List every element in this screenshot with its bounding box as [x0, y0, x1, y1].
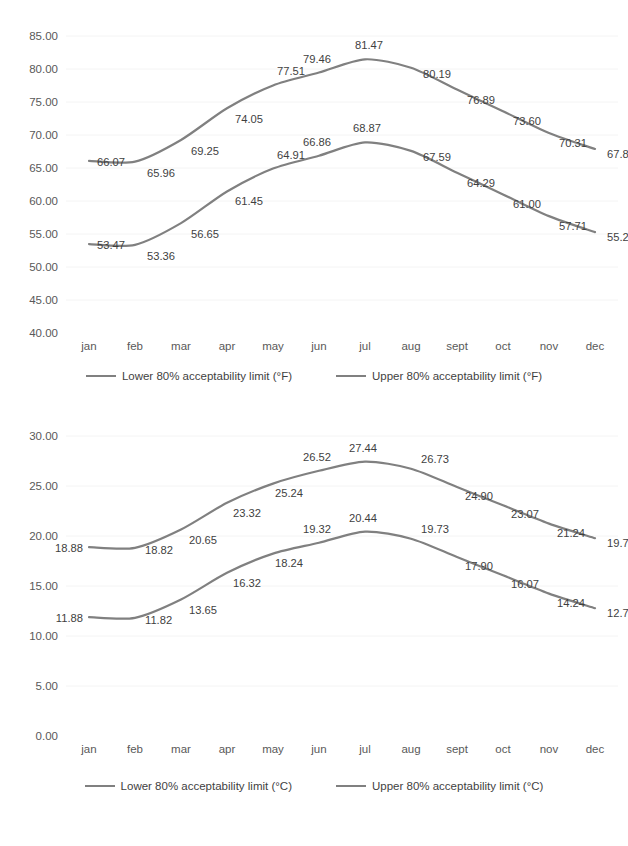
legend-label: Lower 80% acceptability limit (°C) [121, 780, 292, 792]
y-axis-tick-label: 75.00 [29, 96, 58, 108]
y-axis-tick-label: 45.00 [29, 294, 58, 306]
fahrenheit-chart-block: 85.0080.0075.0070.0065.0060.0055.0050.00… [0, 18, 628, 400]
data-point-label: 18.24 [275, 557, 303, 569]
data-point-label: 13.65 [189, 604, 217, 616]
x-axis-category-label: sept [446, 743, 469, 755]
data-point-label: 19.73 [421, 523, 449, 535]
data-point-label: 76.89 [467, 94, 495, 106]
data-point-label: 23.07 [511, 508, 539, 520]
data-point-label: 26.52 [303, 451, 331, 463]
legend-item-upper[interactable]: Upper 80% acceptability limit (°C) [336, 780, 543, 792]
celsius-chart-svg: 30.0025.0020.0015.0010.005.000.00janfebm… [0, 418, 628, 773]
data-point-label: 53.36 [147, 250, 175, 262]
x-axis-category-label: sept [446, 340, 469, 352]
fahrenheit-chart-legend: Lower 80% acceptability limit (°F)Upper … [0, 370, 628, 382]
celsius-chart-legend: Lower 80% acceptability limit (°C)Upper … [0, 780, 628, 792]
data-point-label: 66.86 [303, 136, 331, 148]
x-axis-category-label: dec [586, 743, 605, 755]
data-point-label: 14.24 [557, 597, 585, 609]
data-point-label: 69.25 [191, 145, 219, 157]
data-point-label: 80.19 [423, 68, 451, 80]
data-point-label: 25.24 [275, 487, 303, 499]
y-axis-tick-label: 60.00 [29, 195, 58, 207]
x-axis-category-label: mar [171, 340, 191, 352]
x-axis-category-label: jul [358, 340, 371, 352]
legend-item-lower[interactable]: Lower 80% acceptability limit (°F) [86, 370, 292, 382]
x-axis-category-label: jun [310, 340, 326, 352]
legend-line-swatch [336, 785, 366, 787]
data-point-label: 74.05 [235, 113, 263, 125]
y-axis-tick-label: 70.00 [29, 129, 58, 141]
x-axis-category-label: aug [401, 743, 420, 755]
data-point-label: 18.88 [55, 542, 83, 554]
data-point-label: 55.28 [607, 231, 628, 243]
data-point-label: 81.47 [355, 39, 383, 51]
x-axis-category-label: oct [495, 340, 511, 352]
chart-page: 85.0080.0075.0070.0065.0060.0055.0050.00… [0, 0, 628, 846]
legend-label: Upper 80% acceptability limit (°F) [372, 370, 542, 382]
legend-label: Lower 80% acceptability limit (°F) [122, 370, 292, 382]
data-point-label: 23.32 [233, 507, 261, 519]
x-axis-category-label: jan [80, 340, 96, 352]
celsius-chart-block: 30.0025.0020.0015.0010.005.000.00janfebm… [0, 418, 628, 818]
y-axis-tick-label: 85.00 [29, 30, 58, 42]
x-axis-category-label: jan [80, 743, 96, 755]
data-point-label: 11.88 [56, 612, 83, 624]
y-axis-tick-label: 80.00 [29, 63, 58, 75]
data-point-label: 16.07 [511, 578, 539, 590]
y-axis-tick-label: 65.00 [29, 162, 58, 174]
data-point-label: 64.29 [467, 177, 495, 189]
data-point-label: 67.59 [423, 151, 451, 163]
x-axis-category-label: feb [127, 743, 143, 755]
y-axis-tick-label: 5.00 [36, 680, 58, 692]
x-axis-category-label: jul [358, 743, 371, 755]
x-axis-category-label: apr [219, 340, 236, 352]
data-point-label: 73.60 [513, 115, 541, 127]
x-axis-category-label: jun [310, 743, 326, 755]
data-point-label: 65.96 [147, 167, 175, 179]
y-axis-tick-label: 30.00 [29, 430, 58, 442]
legend-line-swatch [336, 375, 366, 377]
legend-line-swatch [86, 375, 116, 377]
y-axis-tick-label: 20.00 [29, 530, 58, 542]
data-point-label: 56.65 [191, 228, 219, 240]
y-axis-tick-label: 10.00 [29, 630, 58, 642]
legend-item-upper[interactable]: Upper 80% acceptability limit (°F) [336, 370, 542, 382]
x-axis-category-label: apr [219, 743, 236, 755]
data-point-label: 19.78 [607, 537, 628, 549]
data-point-label: 20.44 [349, 512, 377, 524]
y-axis-tick-label: 40.00 [29, 327, 58, 339]
legend-item-lower[interactable]: Lower 80% acceptability limit (°C) [85, 780, 292, 792]
data-point-label: 68.87 [353, 122, 381, 134]
data-point-label: 16.32 [233, 577, 261, 589]
x-axis-category-label: nov [540, 340, 559, 352]
data-point-label: 26.73 [421, 453, 449, 465]
series-line-lower [89, 142, 595, 246]
data-point-label: 18.82 [145, 544, 173, 556]
data-point-label: 21.24 [557, 527, 585, 539]
x-axis-category-label: oct [495, 743, 511, 755]
data-point-label: 67.88 [607, 148, 628, 160]
x-axis-category-label: nov [540, 743, 559, 755]
data-point-label: 11.82 [145, 614, 172, 626]
legend-line-swatch [85, 785, 115, 787]
data-point-label: 20.65 [189, 534, 217, 546]
x-axis-category-label: feb [127, 340, 143, 352]
x-axis-category-label: dec [586, 340, 605, 352]
data-point-label: 79.46 [303, 53, 331, 65]
data-point-label: 27.44 [349, 442, 377, 454]
y-axis-tick-label: 50.00 [29, 261, 58, 273]
data-point-label: 61.45 [235, 195, 263, 207]
data-point-label: 24.90 [465, 490, 493, 502]
data-point-label: 66.07 [97, 156, 125, 168]
data-point-label: 70.31 [559, 137, 587, 149]
data-point-label: 17.90 [465, 560, 493, 572]
data-point-label: 61.00 [513, 198, 541, 210]
y-axis-tick-label: 15.00 [29, 580, 58, 592]
y-axis-tick-label: 25.00 [29, 480, 58, 492]
y-axis-tick-label: 55.00 [29, 228, 58, 240]
x-axis-category-label: may [262, 340, 284, 352]
x-axis-category-label: may [262, 743, 284, 755]
data-point-label: 19.32 [303, 523, 331, 535]
data-point-label: 77.51 [277, 65, 305, 77]
